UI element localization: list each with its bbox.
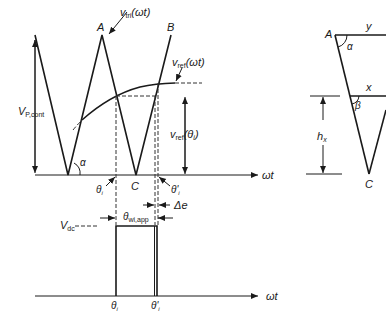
vertex-a-label: A (324, 28, 332, 40)
pwm-diagram: vtri(ωt) A B vref(ωt) VP,cont vref(θi) α… (0, 0, 386, 328)
theta-i-prime-pointer (159, 177, 170, 186)
carrier-label: vtri(ωt) (120, 6, 151, 19)
height-label: hx (317, 130, 327, 143)
pulse-width-label: θwi,app (123, 211, 149, 224)
reference-pointer (176, 68, 182, 81)
reference-label: vref(ωt) (172, 56, 205, 69)
theta-i-label: θi (96, 184, 103, 196)
peak-a-label: A (96, 21, 104, 33)
beta-label: β (354, 100, 361, 111)
theta-i-pointer (106, 177, 115, 186)
alpha-label-detail: α (347, 41, 353, 52)
reference-curve (82, 83, 175, 120)
amplitude-label: VP,cont (18, 105, 44, 118)
triangle-right-edge (369, 110, 386, 174)
top-width-label: y (365, 20, 373, 32)
top-axis-label: ωt (262, 169, 275, 181)
delta-e-label: Δe (173, 199, 188, 211)
triangle-detail: A y α x β hx C (306, 20, 386, 190)
pwm-pulse (116, 226, 157, 296)
bottom-theta-i-label: θi (111, 300, 118, 312)
peak-b-label: B (167, 21, 174, 33)
vdc-label: Vdc (60, 219, 75, 232)
theta-i-prime-label: θ'i (171, 184, 180, 196)
valley-c-label: C (131, 180, 139, 192)
vertex-c-label: C (365, 178, 373, 190)
top-plot: vtri(ωt) A B vref(ωt) VP,cont vref(θi) α… (18, 6, 275, 225)
bottom-theta-i-prime-label: θ'i (151, 300, 160, 312)
triangle-carrier (35, 35, 171, 175)
vref-theta-label: vref(θi) (170, 128, 199, 141)
bottom-axis-label: ωt (266, 290, 279, 302)
alpha-label: α (80, 157, 86, 168)
bottom-plot: θwi,app Vdc θi θ'i ωt (35, 211, 279, 312)
alpha-arc-detail (338, 35, 347, 47)
mid-width-label: x (365, 81, 372, 93)
triangle-left-edge (335, 35, 369, 174)
